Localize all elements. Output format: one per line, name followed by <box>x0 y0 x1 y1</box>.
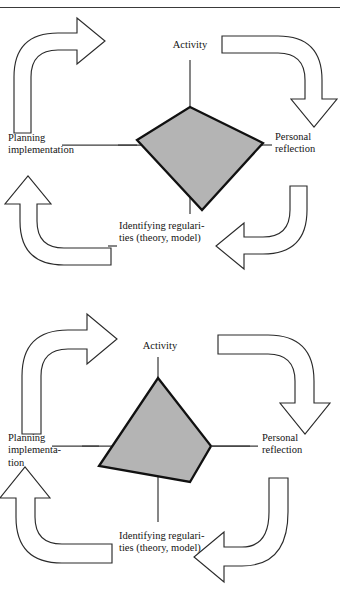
page-canvas: Activity Personal reflection Identifying… <box>0 0 340 597</box>
label-personal-reflection: Personal reflection <box>262 432 328 457</box>
label-activity: Activity <box>105 340 215 352</box>
arrow-reflection-to-regularities-icon <box>216 186 307 269</box>
label-personal-reflection: Personal reflection <box>275 131 337 156</box>
label-identifying-regularities: Identifying regulari- ties (theory, mode… <box>119 220 223 245</box>
profile-polygon <box>137 107 263 210</box>
arrow-planning-to-activity-icon <box>22 314 117 434</box>
label-planning-implementation: Planning implementa- tion <box>8 432 86 469</box>
figure-two: Activity Personal reflection Identifying… <box>0 300 340 597</box>
figure-one: Activity Personal reflection Identifying… <box>0 14 340 276</box>
arrow-regularities-to-planning-icon <box>5 176 111 265</box>
profile-polygon <box>99 378 211 482</box>
arrow-planning-to-activity-icon <box>14 18 105 133</box>
label-planning-implementation: Planning implementation <box>8 132 98 157</box>
arrow-regularities-to-planning-icon <box>0 467 112 563</box>
arrow-activity-to-reflection-icon <box>218 335 330 434</box>
header-faint-text <box>0 0 340 6</box>
header-divider-rule <box>0 7 340 8</box>
label-activity: Activity <box>133 39 247 51</box>
label-identifying-regularities: Identifying regulari- ties (theory, mode… <box>119 530 223 555</box>
